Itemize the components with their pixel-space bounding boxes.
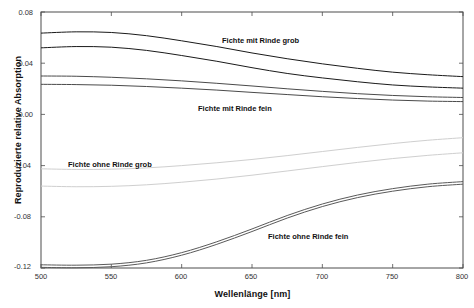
plot-frame <box>41 12 463 268</box>
xtick-label-2: 600 <box>166 272 196 281</box>
series-annotation-fichte-ohne-rinde-fein: Fichte ohne Rinde fein <box>268 232 348 241</box>
series-annotation-fichte-ohne-rinde-grob: Fichte ohne Rinde grob <box>68 160 152 169</box>
ytick-label-0: 0.08 <box>7 8 33 17</box>
xtick-label-6: 800 <box>447 272 474 281</box>
xtick-label-4: 700 <box>307 272 337 281</box>
y-axis-title: Reproduzierte relative Absorption <box>13 20 23 240</box>
xtick-label-1: 550 <box>96 272 126 281</box>
ytick-label-5: -0.12 <box>5 262 31 271</box>
plot-canvas <box>0 0 474 308</box>
series-annotation-fichte-mit-rinde-grob: Fichte mit Rinde grob <box>222 36 299 45</box>
xtick-label-5: 750 <box>377 272 407 281</box>
xtick-label-3: 650 <box>236 272 266 281</box>
xtick-label-0: 500 <box>26 272 56 281</box>
series-annotation-fichte-mit-rinde-fein: Fichte mit Rinde fein <box>198 104 272 113</box>
chart-figure: 0.08 0.04 0.00 -0.04 -0.08 -0.12 500 550… <box>0 0 474 308</box>
x-axis-title: Wellenlänge [nm] <box>150 289 355 299</box>
